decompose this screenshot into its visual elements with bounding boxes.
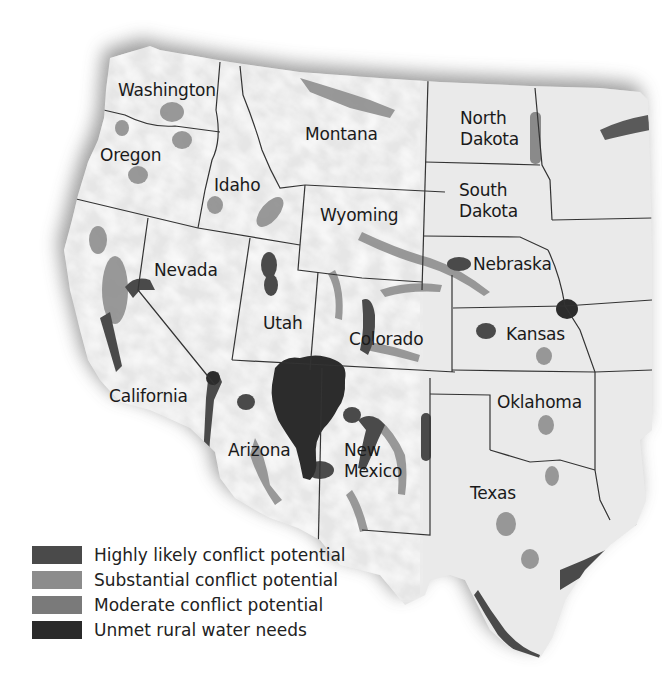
- legend-item-highly-likely: Highly likely conflict potential: [32, 543, 346, 567]
- legend-swatch-unmet: [32, 621, 82, 639]
- state-label-texas: Texas: [470, 483, 516, 503]
- legend-label: Moderate conflict potential: [94, 595, 323, 615]
- legend-label: Substantial conflict potential: [94, 570, 338, 590]
- state-label-arizona: Arizona: [228, 440, 290, 460]
- state-label-nevada: Nevada: [154, 260, 218, 280]
- state-label-colorado: Colorado: [349, 329, 423, 349]
- legend-label: Highly likely conflict potential: [94, 545, 346, 565]
- state-label-california: California: [109, 386, 188, 406]
- legend-swatch-substantial: [32, 571, 82, 589]
- map-legend: Highly likely conflict potential Substan…: [32, 543, 346, 643]
- state-label-nebraska: Nebraska: [473, 254, 552, 274]
- state-label-new-mexico: New Mexico: [344, 440, 402, 482]
- state-label-oklahoma: Oklahoma: [497, 392, 582, 412]
- legend-item-substantial: Substantial conflict potential: [32, 568, 346, 592]
- state-label-utah: Utah: [263, 313, 303, 333]
- conflict-potential-map: Washington Oregon Idaho Montana Wyoming …: [0, 0, 662, 698]
- state-label-kansas: Kansas: [506, 324, 565, 344]
- legend-swatch-moderate: [32, 596, 82, 614]
- state-label-wyoming: Wyoming: [320, 205, 398, 225]
- legend-item-moderate: Moderate conflict potential: [32, 593, 346, 617]
- state-label-montana: Montana: [305, 124, 378, 144]
- legend-label: Unmet rural water needs: [94, 620, 307, 640]
- state-label-oregon: Oregon: [100, 145, 161, 165]
- legend-item-unmet: Unmet rural water needs: [32, 618, 346, 642]
- legend-swatch-highly-likely: [32, 546, 82, 564]
- state-label-washington: Washington: [118, 80, 216, 100]
- state-label-idaho: Idaho: [214, 175, 260, 195]
- state-label-south-dakota: South Dakota: [459, 180, 518, 222]
- state-label-north-dakota: North Dakota: [460, 108, 519, 150]
